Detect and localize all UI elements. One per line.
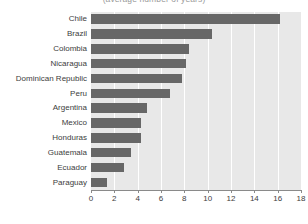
x-tick-mark [161, 190, 162, 193]
category-label: Brazil [67, 30, 87, 38]
bar [91, 59, 186, 69]
x-tick-label: 8 [182, 195, 186, 203]
bar-row [91, 27, 301, 42]
category-label-row: Honduras [0, 131, 87, 146]
bar-chart-figure: (average number of years) ChileBrazilCol… [0, 0, 308, 224]
category-label: Chile [69, 15, 87, 23]
bar-row [91, 160, 301, 175]
bar-row [91, 101, 301, 116]
category-label: Paraguay [53, 179, 87, 187]
category-label: Honduras [52, 134, 87, 142]
category-label: Argentina [53, 104, 87, 112]
category-label-row: Nicaragua [0, 56, 87, 71]
bar [91, 148, 131, 158]
category-label: Colombia [53, 45, 87, 53]
category-label: Guatemala [48, 149, 87, 157]
category-label-row: Peru [0, 86, 87, 101]
bar-row [91, 145, 301, 160]
x-tick-label: 18 [297, 195, 306, 203]
bar [91, 133, 141, 143]
bar [91, 118, 141, 128]
bar-row [91, 175, 301, 190]
category-label: Nicaragua [51, 60, 87, 68]
x-tick-label: 6 [159, 195, 163, 203]
x-tick-label: 16 [273, 195, 282, 203]
bar [91, 178, 107, 188]
chart-subtitle: (average number of years) [0, 0, 308, 4]
category-label: Dominican Republic [16, 75, 87, 83]
x-axis-line [91, 190, 301, 191]
category-label-row: Dominican Republic [0, 71, 87, 86]
bar-row [91, 42, 301, 57]
bar-row [91, 86, 301, 101]
bar [91, 29, 212, 39]
category-label-row: Brazil [0, 27, 87, 42]
category-label-row: Colombia [0, 42, 87, 57]
x-tick-mark [91, 190, 92, 193]
x-tick-mark [184, 190, 185, 193]
category-label: Ecuador [57, 164, 87, 172]
bar-row [91, 131, 301, 146]
category-axis-labels: ChileBrazilColombiaNicaraguaDominican Re… [0, 12, 87, 190]
bar-row [91, 71, 301, 86]
x-tick-label: 2 [112, 195, 116, 203]
x-tick-label: 10 [203, 195, 212, 203]
x-tick-label: 0 [89, 195, 93, 203]
category-label-row: Chile [0, 12, 87, 27]
x-tick-label: 4 [135, 195, 139, 203]
x-tick-mark [278, 190, 279, 193]
category-label-row: Ecuador [0, 160, 87, 175]
bar-row [91, 56, 301, 71]
bar [91, 163, 124, 173]
bar [91, 14, 280, 24]
bars-layer [91, 12, 301, 190]
x-tick-label: 14 [250, 195, 259, 203]
x-tick-mark [114, 190, 115, 193]
x-tick-mark [138, 190, 139, 193]
bar-row [91, 116, 301, 131]
x-tick-mark [231, 190, 232, 193]
bar [91, 74, 182, 84]
x-tick-mark [254, 190, 255, 193]
category-label-row: Argentina [0, 101, 87, 116]
category-label-row: Paraguay [0, 175, 87, 190]
x-tick-mark [208, 190, 209, 193]
bar [91, 44, 189, 54]
category-label-row: Guatemala [0, 145, 87, 160]
x-tick-label: 12 [227, 195, 236, 203]
bar [91, 103, 147, 113]
category-label-row: Mexico [0, 116, 87, 131]
x-tick-mark [301, 190, 302, 193]
category-label: Peru [70, 90, 87, 98]
bar-row [91, 12, 301, 27]
bar [91, 89, 170, 99]
category-label: Mexico [62, 119, 87, 127]
